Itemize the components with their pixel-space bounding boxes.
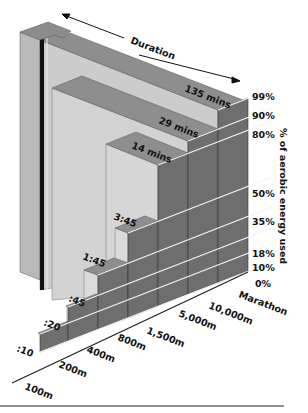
duration-title: Duration xyxy=(129,35,177,62)
distance-label-800m: 800m xyxy=(116,332,148,353)
pct-label-10: 10% xyxy=(252,262,275,273)
pct-label-90: 90% xyxy=(252,110,275,121)
energy-system-diagram: Duration 135 mins 29 mins 14 mins 3:45 1… xyxy=(0,0,308,413)
pct-label-35: 35% xyxy=(252,216,275,227)
pct-label-0: 0% xyxy=(255,278,272,289)
y-axis-title: % of aerobic energy used xyxy=(278,128,289,264)
pct-label-99: 99% xyxy=(252,91,275,102)
distance-label-200m: 200m xyxy=(57,359,89,380)
pct-label-18: 18% xyxy=(252,248,275,259)
duration-label-100m: :10 xyxy=(15,343,35,360)
distance-label-400m: 400m xyxy=(85,344,117,365)
distance-label-1500m: 1,500m xyxy=(145,325,186,350)
pct-label-50: 50% xyxy=(252,188,275,199)
distance-label-100m: 100m xyxy=(23,381,55,402)
pct-label-80: 80% xyxy=(252,129,275,140)
